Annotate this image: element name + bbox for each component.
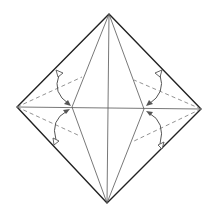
fold-arrow-right-lower-icon [146, 111, 164, 149]
kite-crease-left [72, 14, 109, 203]
valley-fold-right-upper [134, 80, 201, 109]
valley-fold-left-lower [17, 107, 80, 136]
fold-arrow-left-lower-icon [53, 109, 70, 145]
fold-arrow-right-upper-icon [146, 70, 162, 106]
horizontal-crease [17, 107, 201, 109]
vertical-crease [107, 14, 109, 203]
valley-fold-left-upper [17, 77, 82, 107]
origami-diagram [0, 0, 211, 213]
